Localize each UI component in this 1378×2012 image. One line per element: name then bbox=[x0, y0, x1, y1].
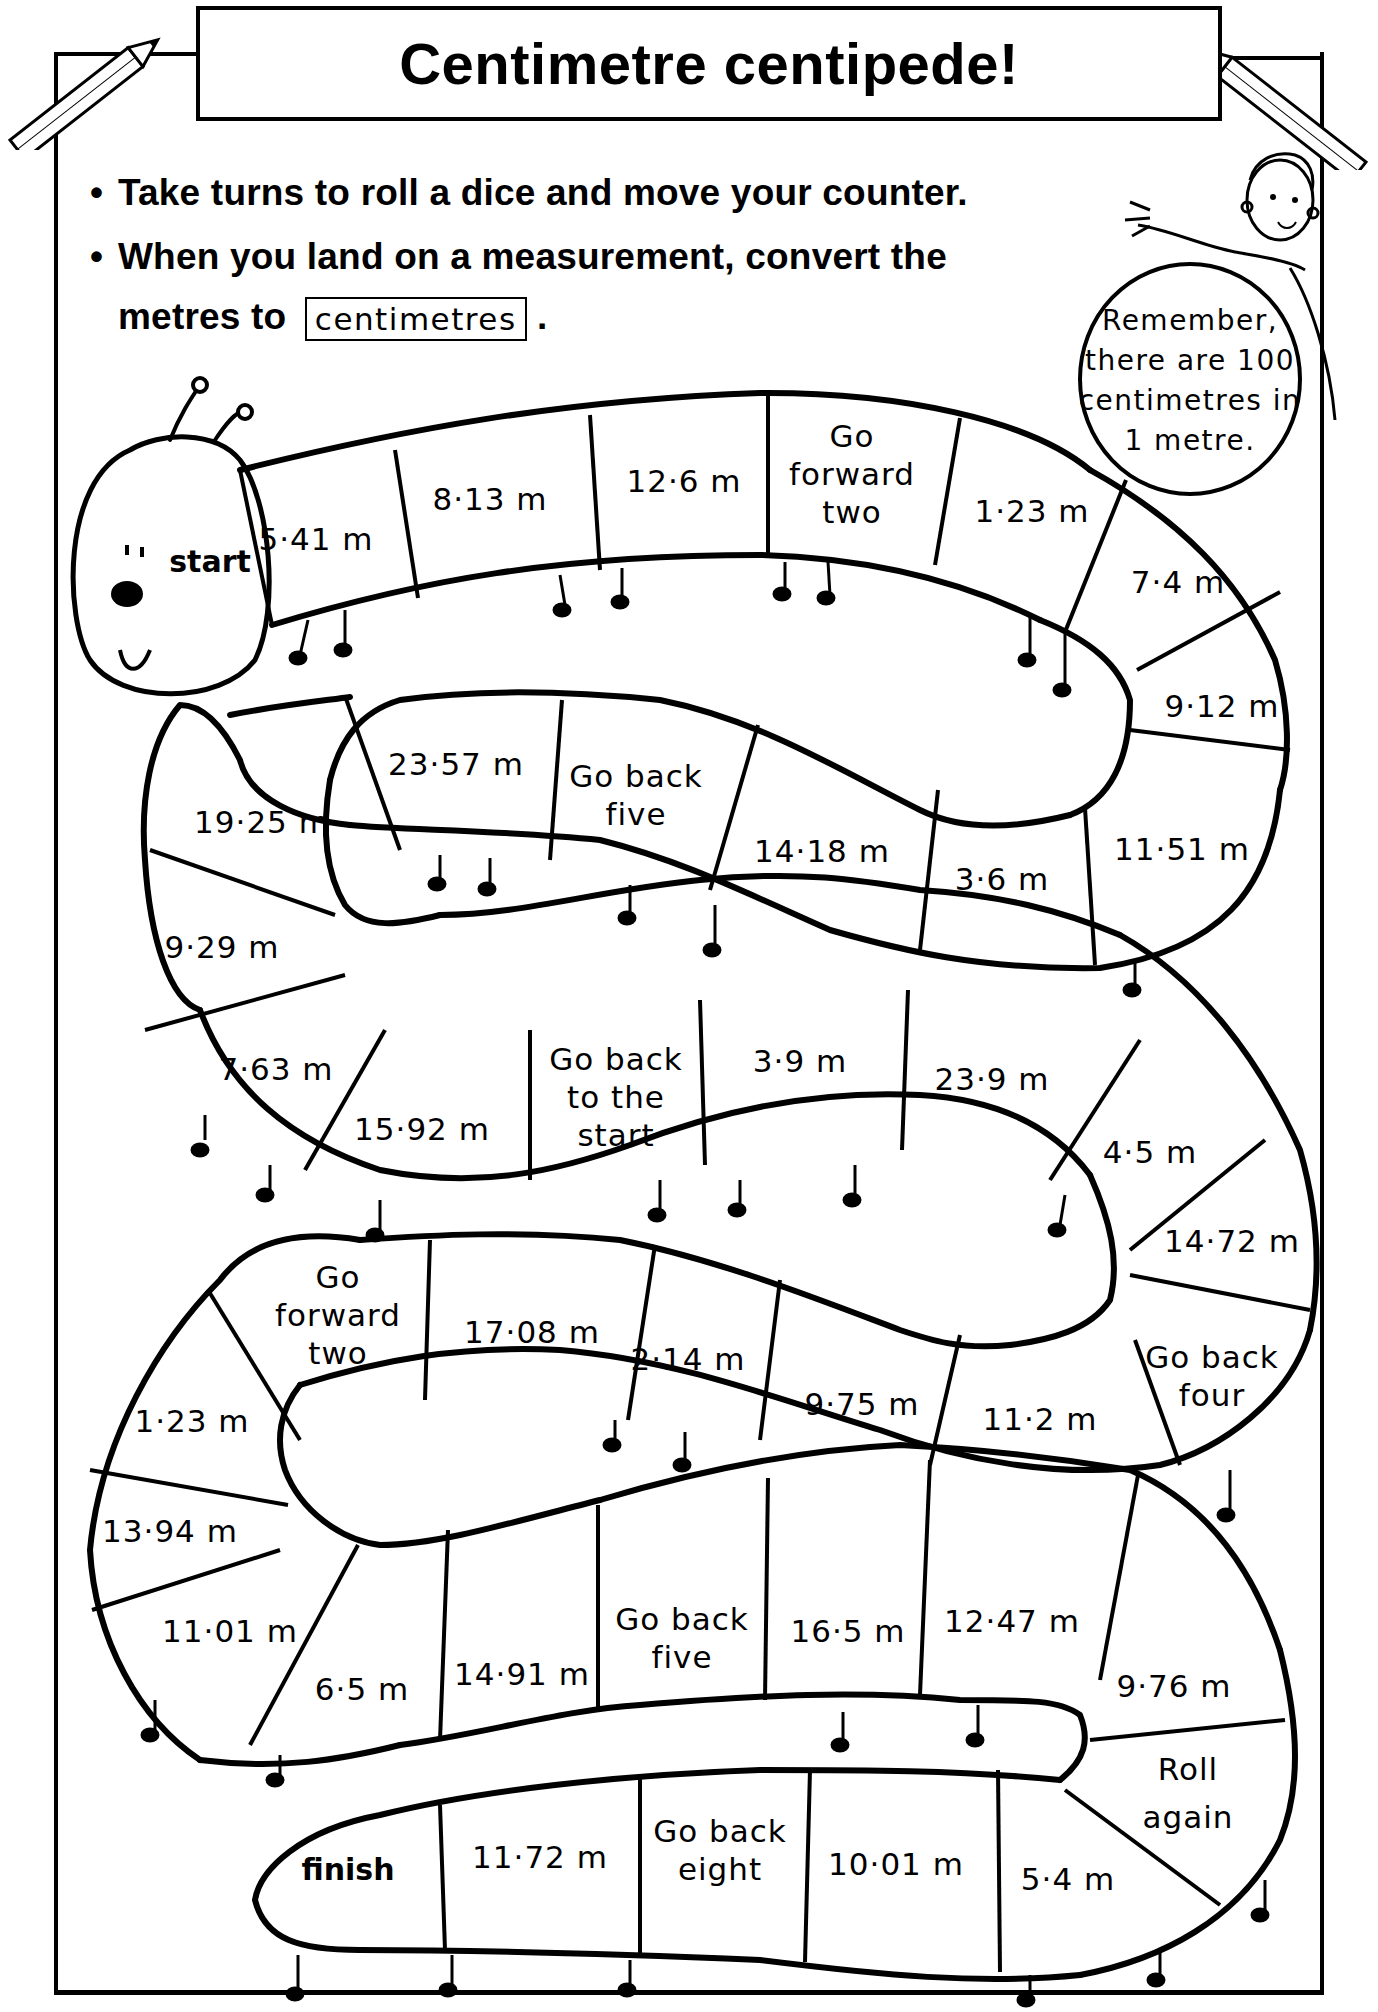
cell-r2c4-line2[interactable]: five bbox=[606, 796, 667, 832]
cell-r1c5[interactable]: 1·23 m bbox=[974, 493, 1089, 529]
centipede-board: Remember, there are 100 centimetres in 1… bbox=[0, 0, 1378, 2012]
cell-r4c4[interactable]: 2·14 m bbox=[630, 1341, 745, 1377]
cell-r1c2[interactable]: 8·13 m bbox=[432, 481, 547, 517]
cell-r5c6[interactable]: 16·5 m bbox=[790, 1613, 905, 1649]
cell-r3c3-line1[interactable]: Go back bbox=[549, 1041, 683, 1077]
reminder-line-1: Remember, bbox=[1102, 304, 1278, 337]
cell-r6c5[interactable]: 11·72 m bbox=[472, 1839, 608, 1875]
finish-label: finish bbox=[301, 1852, 394, 1887]
cell-r5c2[interactable]: 11·01 m bbox=[162, 1613, 298, 1649]
cell-r4c2[interactable]: 11·2 m bbox=[982, 1401, 1097, 1437]
cell-r3c1[interactable]: 7·63 m bbox=[218, 1051, 333, 1087]
cell-r1c7[interactable]: 9·12 m bbox=[1164, 688, 1279, 724]
cell-r4c1-line2[interactable]: four bbox=[1179, 1377, 1245, 1413]
cell-r2c7[interactable]: 9·29 m bbox=[164, 929, 279, 965]
cell-r4c6-line1[interactable]: Go bbox=[316, 1259, 361, 1295]
cell-r2c6[interactable]: 19·25 m bbox=[194, 804, 330, 840]
cell-r2c4-line1[interactable]: Go back bbox=[569, 758, 703, 794]
cell-r6c1-line2[interactable]: again bbox=[1143, 1799, 1234, 1835]
reminder-line-4: 1 metre. bbox=[1124, 424, 1255, 457]
cell-r6c3[interactable]: 10·01 m bbox=[828, 1846, 964, 1882]
cell-r4c6-line2[interactable]: forward bbox=[275, 1297, 401, 1333]
cell-r3c4[interactable]: 3·9 m bbox=[753, 1043, 847, 1079]
cell-r6c1-line1[interactable]: Roll bbox=[1158, 1751, 1218, 1787]
cell-r1c4-line2[interactable]: forward bbox=[789, 456, 915, 492]
cell-r3c5[interactable]: 23·9 m bbox=[934, 1061, 1049, 1097]
cell-r3c2[interactable]: 15·92 m bbox=[354, 1111, 490, 1147]
start-label: start bbox=[169, 544, 251, 579]
cell-r1c4-line3[interactable]: two bbox=[822, 494, 881, 530]
cell-r3c3-line3[interactable]: start bbox=[577, 1117, 654, 1153]
cell-r5c5-line2[interactable]: five bbox=[652, 1639, 713, 1675]
cell-r1c3[interactable]: 12·6 m bbox=[626, 463, 741, 499]
cell-r6c2[interactable]: 5·4 m bbox=[1021, 1861, 1115, 1897]
cell-r5c3[interactable]: 6·5 m bbox=[315, 1671, 409, 1707]
cell-r4c3[interactable]: 9·75 m bbox=[804, 1386, 919, 1422]
cell-r2c1[interactable]: 11·51 m bbox=[1114, 831, 1250, 867]
centipede-legs bbox=[142, 562, 1268, 2006]
cell-r5c8[interactable]: 9·76 m bbox=[1116, 1668, 1231, 1704]
cell-r2c2[interactable]: 3·6 m bbox=[955, 861, 1049, 897]
cell-r5c7[interactable]: 12·47 m bbox=[944, 1603, 1080, 1639]
cell-r2c3[interactable]: 14·18 m bbox=[754, 833, 890, 869]
cell-r6c4-line2[interactable]: eight bbox=[678, 1851, 762, 1887]
cell-r5c4[interactable]: 14·91 m bbox=[454, 1656, 590, 1692]
cell-r3c3-line2[interactable]: to the bbox=[567, 1079, 665, 1115]
reminder-line-2: there are 100 bbox=[1085, 344, 1295, 377]
cell-r4c5[interactable]: 17·08 m bbox=[464, 1314, 600, 1350]
reminder-line-3: centimetres in bbox=[1079, 384, 1302, 417]
cell-r3c7[interactable]: 14·72 m bbox=[1164, 1223, 1300, 1259]
cell-r1c1[interactable]: 5·41 m bbox=[258, 521, 373, 557]
cell-r5c5-line1[interactable]: Go back bbox=[615, 1601, 749, 1637]
cell-r4c7[interactable]: 1·23 m bbox=[134, 1403, 249, 1439]
cell-r1c6[interactable]: 7·4 m bbox=[1131, 564, 1225, 600]
cell-r1c4-line1[interactable]: Go bbox=[830, 418, 875, 454]
cell-r4c1-line1[interactable]: Go back bbox=[1145, 1339, 1279, 1375]
cell-r5c1[interactable]: 13·94 m bbox=[102, 1513, 238, 1549]
cell-r4c6-line3[interactable]: two bbox=[308, 1335, 367, 1371]
reminder-bubble bbox=[1080, 264, 1300, 494]
cell-r6c4-line1[interactable]: Go back bbox=[653, 1813, 787, 1849]
cell-r2c5[interactable]: 23·57 m bbox=[388, 746, 524, 782]
cell-r3c6[interactable]: 4·5 m bbox=[1103, 1134, 1197, 1170]
